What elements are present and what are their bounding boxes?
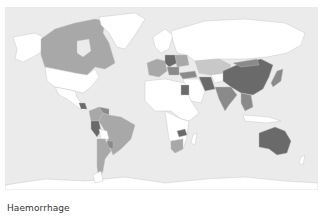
region-madagascar <box>191 133 197 145</box>
region-russia <box>171 19 305 61</box>
region-india <box>215 87 237 111</box>
region-southeast-asia <box>241 93 253 111</box>
region-scandinavia <box>153 29 173 53</box>
region-antarctic-peninsula <box>93 171 103 183</box>
region-balkans <box>167 67 179 75</box>
region-japan <box>271 69 283 87</box>
region-antarctica <box>5 177 318 190</box>
region-indonesia <box>243 115 281 123</box>
region-australia <box>259 127 291 155</box>
region-new-zealand <box>299 155 305 165</box>
region-eastern-europe <box>175 55 189 67</box>
region-turkey <box>179 71 197 79</box>
map-svg <box>5 7 318 190</box>
region-western-europe <box>147 59 167 77</box>
region-southern-africa <box>171 139 183 153</box>
map-caption: Haemorrhage <box>7 203 70 213</box>
region-alaska <box>13 33 43 62</box>
region-egypt <box>181 85 189 95</box>
world-map <box>5 7 318 190</box>
